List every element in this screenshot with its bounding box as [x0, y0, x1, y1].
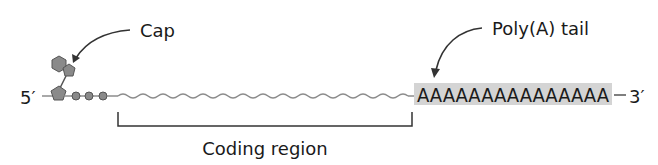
ribose-pentagon-icon: [51, 86, 66, 100]
phosphate-icon: [99, 92, 107, 100]
coding-region-bracket: [118, 112, 412, 126]
mrna-diagram: 5′ Cap AAAAAAAAAAAAAAA 3′: [0, 0, 658, 165]
cap-structure: [51, 56, 107, 100]
phosphate-icon: [72, 92, 80, 100]
five-prime-label: 5′: [20, 87, 36, 108]
cap-arrowhead-icon: [72, 54, 80, 63]
cap-arrow: [76, 30, 130, 58]
phosphate-icon: [85, 92, 93, 100]
mrna-svg: 5′ Cap AAAAAAAAAAAAAAA 3′: [0, 0, 658, 165]
polya-sequence: AAAAAAAAAAAAAAA: [417, 84, 609, 106]
three-prime-label: 3′: [629, 86, 645, 107]
polya-label: Poly(A) tail: [492, 18, 589, 39]
coding-region-label: Coding region: [202, 138, 328, 159]
polya-arrow: [436, 28, 482, 70]
cap-label: Cap: [140, 20, 175, 41]
coding-strand: [118, 94, 408, 98]
polya-arrowhead-icon: [431, 68, 440, 78]
